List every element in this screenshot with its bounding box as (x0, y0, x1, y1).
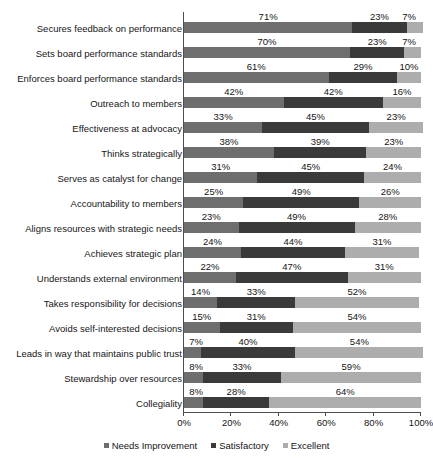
bar-segment (366, 147, 421, 158)
data-label: 22% (201, 261, 220, 272)
data-label: 52% (347, 286, 366, 297)
x-axis-tick (278, 413, 279, 416)
data-label: 33% (233, 361, 252, 372)
data-label: 64% (336, 386, 355, 397)
bar-track (184, 322, 421, 333)
data-label-band: 8%28%64% (184, 386, 421, 397)
data-label-band: 14%33%52% (184, 286, 421, 297)
category-label: Aligns resources with strategic needs (2, 223, 182, 234)
data-label: 31% (211, 161, 230, 172)
data-label: 24% (383, 161, 402, 172)
data-label: 7% (402, 36, 416, 47)
bar-segment (184, 197, 243, 208)
data-label-band: 22%47%31% (184, 261, 421, 272)
bar-segment (184, 172, 257, 183)
data-label: 47% (282, 261, 301, 272)
plot-area: Secures feedback on performance71%23%7%S… (0, 12, 433, 412)
bar-track (184, 22, 421, 33)
category-label: Stewardship over resources (2, 373, 182, 384)
data-label-band: 70%23%7% (184, 36, 421, 47)
legend-swatch-icon (211, 443, 216, 448)
bar-segment (329, 72, 398, 83)
bar-segment (184, 122, 262, 133)
legend-item[interactable]: Satisfactory (211, 440, 269, 452)
bar-track (184, 72, 421, 83)
data-label-band: 33%45%23% (184, 111, 421, 122)
data-label: 33% (214, 111, 233, 122)
category-label: Understands external environment (2, 273, 182, 284)
bar-segment (201, 347, 296, 358)
data-label-band: 23%49%28% (184, 211, 421, 222)
chart-row: Outreach to members42%42%16% (0, 87, 433, 112)
bar-track (184, 372, 421, 383)
bar-track (184, 347, 421, 358)
category-label: Accountability to members (2, 198, 182, 209)
bar-segment (243, 197, 359, 208)
chart-row: Secures feedback on performance71%23%7% (0, 12, 433, 37)
bar-segment (397, 72, 421, 83)
bar-segment (220, 322, 293, 333)
bar-segment (293, 322, 421, 333)
clipped-title-remnant (0, 0, 433, 7)
chart-row: Accountability to members25%49%26% (0, 187, 433, 212)
legend-swatch-icon (283, 443, 288, 448)
data-label: 42% (324, 86, 343, 97)
chart-row: Understands external environment22%47%31… (0, 262, 433, 287)
bar-segment (352, 22, 407, 33)
chart-row: Thinks strategically38%39%23% (0, 137, 433, 162)
data-label: 10% (399, 61, 418, 72)
legend-item[interactable]: Needs Improvement (104, 440, 198, 452)
bar-segment (262, 122, 369, 133)
category-label: Achieves strategic plan (2, 248, 182, 259)
chart-row: Effectiveness at advocacy33%45%23% (0, 112, 433, 137)
bar-segment (184, 322, 220, 333)
bar-segment (184, 272, 236, 283)
chart-row: Takes responsibility for decisions14%33%… (0, 287, 433, 312)
data-label: 14% (191, 286, 210, 297)
legend-label: Satisfactory (219, 440, 269, 451)
bar-segment (295, 297, 418, 308)
bar-track (184, 197, 421, 208)
x-axis-tick (373, 413, 374, 416)
bar-segment (404, 47, 421, 58)
bar-segment (359, 197, 421, 208)
data-label: 7% (402, 11, 416, 22)
data-label-band: 25%49%26% (184, 186, 421, 197)
category-label: Secures feedback on performance (2, 23, 182, 34)
bar-segment (184, 247, 241, 258)
x-tick-label: 80% (364, 417, 383, 429)
bar-segment (257, 172, 364, 183)
x-axis-tick (183, 413, 184, 416)
category-label: Outreach to members (2, 98, 182, 109)
data-label: 33% (247, 286, 266, 297)
data-label: 23% (202, 211, 221, 222)
bar-segment (348, 272, 421, 283)
data-label: 31% (372, 236, 391, 247)
bar-segment (383, 97, 421, 108)
data-label: 15% (192, 311, 211, 322)
data-label: 45% (306, 111, 325, 122)
category-label: Sets board performance standards (2, 48, 182, 59)
bar-segment (184, 22, 352, 33)
bar-track (184, 122, 421, 133)
bar-segment (236, 272, 347, 283)
bar-track (184, 147, 421, 158)
bar-segment (284, 97, 384, 108)
bar-track (184, 97, 421, 108)
data-label-band: 8%33%59% (184, 361, 421, 372)
legend-item[interactable]: Excellent (283, 440, 330, 452)
data-label-band: 61%29%10% (184, 61, 421, 72)
data-label: 29% (353, 61, 372, 72)
data-label: 54% (347, 311, 366, 322)
data-label: 7% (189, 336, 203, 347)
chart-row: Aligns resources with strategic needs23%… (0, 212, 433, 237)
data-label-band: 31%45%24% (184, 161, 421, 172)
category-label: Enforces board performance standards (2, 73, 182, 84)
category-label: Thinks strategically (2, 148, 182, 159)
bar-segment (239, 222, 355, 233)
data-label: 23% (368, 36, 387, 47)
bar-track (184, 297, 421, 308)
data-label: 70% (257, 36, 276, 47)
data-label: 71% (259, 11, 278, 22)
category-label: Serves as catalyst for change (2, 173, 182, 184)
